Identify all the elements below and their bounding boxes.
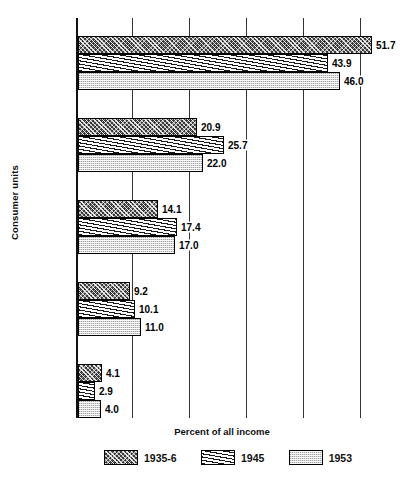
bar-chart: Consumer units Top Fifth 51.7 43.9 46.0 … bbox=[0, 0, 412, 481]
bar-value: 46.0 bbox=[343, 76, 364, 87]
bar-value: 11.0 bbox=[144, 322, 165, 333]
bar-value: 10.1 bbox=[138, 304, 159, 315]
bar-value: 14.1 bbox=[161, 204, 182, 215]
legend-swatch-icon bbox=[201, 450, 235, 465]
bar-value: 17.0 bbox=[178, 240, 199, 251]
bar-second-fifth-1935-6: 20.9 bbox=[78, 118, 197, 136]
legend-item-1953: 1953 bbox=[289, 450, 352, 465]
bar-bottom-fifth-1953: 4.0 bbox=[78, 400, 101, 418]
bar-fourth-fifth-1953: 11.0 bbox=[78, 318, 141, 336]
y-axis-title: Consumer units bbox=[9, 153, 20, 253]
bar-value: 17.4 bbox=[180, 222, 201, 233]
bar-bottom-fifth-1945: 2.9 bbox=[78, 382, 95, 400]
legend-item-1945: 1945 bbox=[201, 450, 264, 465]
bar-value: 9.2 bbox=[133, 286, 149, 297]
bar-second-fifth-1945: 25.7 bbox=[78, 136, 224, 154]
bar-second-fifth-1953: 22.0 bbox=[78, 154, 203, 172]
legend-item-1935-6: 1935-6 bbox=[104, 450, 177, 465]
bar-value: 4.1 bbox=[105, 368, 121, 379]
bar-third-fifth-1945: 17.4 bbox=[78, 218, 177, 236]
bar-bottom-fifth-1935-6: 4.1 bbox=[78, 364, 102, 382]
bar-value: 2.9 bbox=[98, 386, 114, 397]
bar-third-fifth-1935-6: 14.1 bbox=[78, 200, 158, 218]
legend-label: 1945 bbox=[241, 452, 264, 464]
bar-fourth-fifth-1935-6: 9.2 bbox=[78, 282, 130, 300]
legend: 1935-6 1945 1953 bbox=[76, 450, 376, 465]
bar-top-fifth-1953: 46.0 bbox=[78, 72, 340, 90]
bar-value: 20.9 bbox=[200, 122, 221, 133]
bar-value: 4.0 bbox=[104, 404, 120, 415]
bar-top-fifth-1935-6: 51.7 bbox=[78, 36, 372, 54]
legend-label: 1953 bbox=[329, 452, 352, 464]
bar-top-fifth-1945: 43.9 bbox=[78, 54, 328, 72]
legend-label: 1935-6 bbox=[144, 452, 177, 464]
x-axis-title: Percent of all income bbox=[76, 426, 368, 437]
bar-value: 22.0 bbox=[206, 158, 227, 169]
bar-value: 43.9 bbox=[331, 58, 352, 69]
plot-area: Top Fifth 51.7 43.9 46.0 Second Fifth 20… bbox=[76, 18, 368, 418]
legend-swatch-icon bbox=[289, 450, 323, 465]
bar-value: 25.7 bbox=[227, 140, 248, 151]
bar-third-fifth-1953: 17.0 bbox=[78, 236, 175, 254]
legend-swatch-icon bbox=[104, 450, 138, 465]
bar-fourth-fifth-1945: 10.1 bbox=[78, 300, 135, 318]
bar-value: 51.7 bbox=[375, 40, 396, 51]
